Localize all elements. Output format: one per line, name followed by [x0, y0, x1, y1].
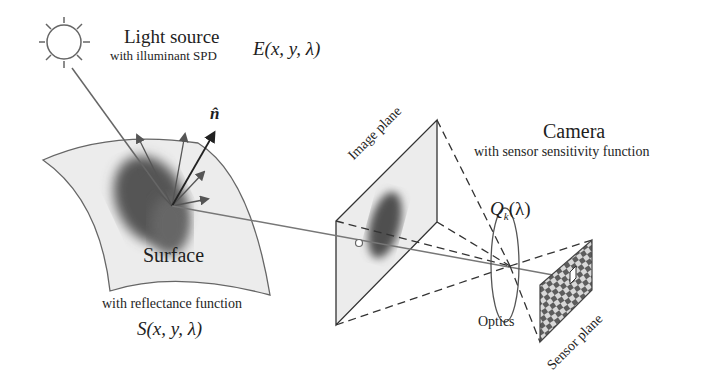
- light-source-subtitle: with illuminant SPD: [110, 48, 217, 64]
- image-point: [356, 240, 363, 247]
- surface-subtitle: with reflectance function: [102, 296, 242, 312]
- surface-title: Surface: [143, 244, 204, 267]
- reflectance-formula: S(x, y, λ): [137, 318, 202, 340]
- image-formation-diagram: Light source with illuminant SPD E(x, y,…: [0, 0, 708, 375]
- optics-label: Optics: [478, 314, 515, 330]
- sun-icon: [39, 17, 90, 68]
- sensitivity-formula: Qk(λ): [490, 198, 531, 222]
- normal-label: n̂: [210, 104, 219, 124]
- camera-title: Camera: [543, 120, 605, 143]
- camera-subtitle: with sensor sensitivity function: [474, 144, 649, 160]
- light-source-title: Light source: [124, 26, 220, 48]
- sensitivity-formula-base: Q: [490, 198, 504, 219]
- sensitivity-formula-tail: (λ): [509, 198, 531, 219]
- illuminant-formula: E(x, y, λ): [253, 38, 320, 60]
